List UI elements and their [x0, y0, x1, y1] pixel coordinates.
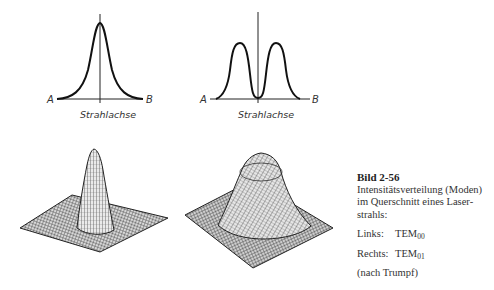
ring-mode-surface: [218, 153, 311, 239]
point-b-label: B: [312, 94, 319, 105]
caption-rechts: Rechts:TEM01: [357, 248, 494, 261]
caption-source: (nach Trumpf): [357, 267, 494, 280]
caption-title: Bild 2-56: [357, 171, 494, 184]
point-a-label: A: [46, 94, 54, 105]
tem00-profile-plot: A B Strahlachse: [0, 0, 180, 125]
rechts-mode-subscript: 01: [417, 252, 425, 261]
tem01-profile-plot: A B Strahlachse: [190, 0, 340, 125]
central-peak: [77, 149, 114, 234]
figure-caption: Bild 2-56 Intensitätsverteilung (Moden) …: [357, 171, 494, 280]
caption-links: Links:TEM00: [357, 228, 494, 241]
links-mode: TEM: [395, 228, 417, 239]
caption-text: Intensitätsverteilung (Moden) im Quersch…: [357, 184, 494, 222]
tem01-3d-surface: [183, 150, 353, 270]
rechts-label: Rechts:: [357, 248, 395, 261]
point-b-label: B: [146, 94, 153, 105]
rechts-mode: TEM: [395, 248, 417, 259]
axis-label: Strahlachse: [80, 109, 136, 120]
point-a-label: A: [199, 94, 207, 105]
axis-label: Strahlachse: [238, 109, 294, 120]
links-label: Links:: [357, 228, 395, 241]
links-mode-subscript: 00: [417, 232, 425, 241]
tem00-3d-surface: [15, 140, 175, 260]
